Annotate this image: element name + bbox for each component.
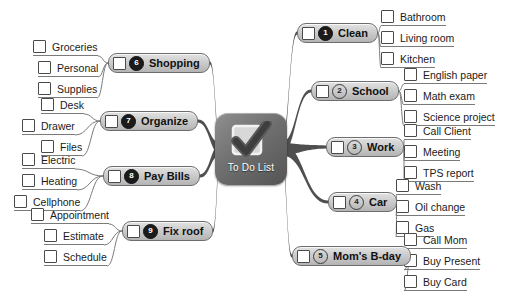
branch-label-clean: Clean xyxy=(338,27,368,39)
branch-node-fix-roof[interactable]: 9Fix roof xyxy=(122,221,213,241)
branch-number-badge-shopping: 6 xyxy=(129,56,144,71)
leaf-node[interactable]: Math exam xyxy=(404,88,475,105)
branch-checkbox-school[interactable] xyxy=(316,85,329,98)
branch-node-car[interactable]: 4Car xyxy=(328,192,397,212)
branch-checkbox-shopping[interactable] xyxy=(113,57,126,70)
leaf-node[interactable]: Supplies xyxy=(38,81,97,98)
leaf-label: Call Mom xyxy=(423,234,467,246)
leaf-node[interactable]: Kitchen xyxy=(381,51,435,68)
branch-node-moms-bday[interactable]: 5Mom's B-day xyxy=(292,246,411,266)
leaf-label: Appointment xyxy=(50,209,109,221)
leaf-checkbox[interactable] xyxy=(404,89,417,102)
branch-node-clean[interactable]: 1Clean xyxy=(297,23,378,43)
leaf-checkbox[interactable] xyxy=(381,31,394,44)
leaf-node[interactable]: Oil change xyxy=(396,199,465,216)
leaf-label: Drawer xyxy=(41,120,75,132)
leaf-checkbox[interactable] xyxy=(396,179,409,192)
leaf-node[interactable]: Electric xyxy=(22,152,75,169)
leaf-node[interactable]: Groceries xyxy=(33,39,98,56)
branch-label-school: School xyxy=(352,85,389,97)
leaf-label: Oil change xyxy=(415,201,465,213)
leaf-checkbox[interactable] xyxy=(33,40,46,53)
leaf-checkbox[interactable] xyxy=(22,119,35,132)
branch-node-organize[interactable]: 7Organize xyxy=(100,111,198,131)
central-topic-node[interactable]: To Do List xyxy=(215,113,287,185)
branch-number-badge-school: 2 xyxy=(332,84,347,99)
branch-label-moms-bday: Mom's B-day xyxy=(333,250,401,262)
branch-checkbox-car[interactable] xyxy=(333,196,346,209)
checkmark-checkbox-icon xyxy=(229,121,273,161)
leaf-label: Living room xyxy=(400,32,454,44)
leaf-label: Buy Present xyxy=(423,255,480,267)
edge-branch-to-leaf xyxy=(82,121,100,156)
leaf-checkbox[interactable] xyxy=(404,110,417,123)
leaf-checkbox[interactable] xyxy=(38,61,51,74)
leaf-checkbox[interactable] xyxy=(404,124,417,137)
leaf-checkbox[interactable] xyxy=(381,10,394,23)
leaf-node[interactable]: Bathroom xyxy=(381,9,446,26)
branch-checkbox-organize[interactable] xyxy=(105,115,118,128)
branch-number-badge-moms-bday: 5 xyxy=(313,249,328,264)
leaf-checkbox[interactable] xyxy=(404,145,417,158)
leaf-checkbox[interactable] xyxy=(396,200,409,213)
leaf-checkbox[interactable] xyxy=(404,233,417,246)
leaf-node[interactable]: Heating xyxy=(22,173,77,190)
leaf-label: Bathroom xyxy=(400,11,446,23)
leaf-checkbox[interactable] xyxy=(22,153,35,166)
leaf-label: Wash xyxy=(415,180,441,192)
leaf-node[interactable]: Personal xyxy=(38,60,98,77)
branch-node-school[interactable]: 2School xyxy=(311,81,399,101)
leaf-label: Files xyxy=(60,141,82,153)
leaf-checkbox[interactable] xyxy=(404,275,417,288)
leaf-node[interactable]: Drawer xyxy=(22,118,75,135)
leaf-node[interactable]: Desk xyxy=(41,97,84,114)
leaf-checkbox[interactable] xyxy=(38,82,51,95)
leaf-label: English paper xyxy=(423,69,487,81)
leaf-checkbox[interactable] xyxy=(381,52,394,65)
leaf-checkbox[interactable] xyxy=(404,68,417,81)
branch-number-badge-fix-roof: 9 xyxy=(143,224,158,239)
leaf-label: Electric xyxy=(41,154,75,166)
mindmap-canvas: To Do List 1CleanBathroomLiving roomKitc… xyxy=(0,0,505,299)
leaf-label: Desk xyxy=(60,99,84,111)
branch-checkbox-fix-roof[interactable] xyxy=(127,225,140,238)
leaf-node[interactable]: Schedule xyxy=(44,249,107,266)
branch-checkbox-clean[interactable] xyxy=(302,27,315,40)
edge-branch-to-leaf xyxy=(84,114,100,121)
leaf-checkbox[interactable] xyxy=(31,208,44,221)
leaf-label: Personal xyxy=(57,62,98,74)
leaf-label: Schedule xyxy=(63,251,107,263)
branch-checkbox-pay-bills[interactable] xyxy=(108,170,121,183)
edge-branch-to-leaf xyxy=(75,169,103,176)
branch-checkbox-moms-bday[interactable] xyxy=(297,250,310,263)
leaf-checkbox[interactable] xyxy=(22,174,35,187)
branch-node-shopping[interactable]: 6Shopping xyxy=(108,53,210,73)
branch-label-work: Work xyxy=(367,141,394,153)
leaf-node[interactable]: Call Client xyxy=(404,123,471,140)
leaf-node[interactable]: Meeting xyxy=(404,144,460,161)
branch-checkbox-work[interactable] xyxy=(331,141,344,154)
leaf-label: Supplies xyxy=(57,83,97,95)
leaf-label: Meeting xyxy=(423,146,460,158)
branch-node-pay-bills[interactable]: 8Pay Bills xyxy=(103,166,200,186)
leaf-node[interactable]: Estimate xyxy=(44,228,104,245)
leaf-node[interactable]: Buy Card xyxy=(404,274,467,291)
edge-branch-to-leaf xyxy=(97,63,108,98)
leaf-checkbox[interactable] xyxy=(44,250,57,263)
branch-label-shopping: Shopping xyxy=(149,57,200,69)
central-topic-label: To Do List xyxy=(228,162,274,173)
leaf-node[interactable]: Appointment xyxy=(31,207,109,224)
leaf-node[interactable]: Call Mom xyxy=(404,232,467,249)
branch-label-fix-roof: Fix roof xyxy=(163,225,203,237)
leaf-label: Buy Card xyxy=(423,276,467,288)
leaf-checkbox[interactable] xyxy=(44,229,57,242)
leaf-label: Call Client xyxy=(423,125,471,137)
leaf-label: TPS report xyxy=(423,167,474,179)
leaf-node[interactable]: English paper xyxy=(404,67,487,84)
branch-node-work[interactable]: 3Work xyxy=(326,137,404,157)
leaf-node[interactable]: Wash xyxy=(396,178,441,195)
leaf-checkbox[interactable] xyxy=(14,195,27,208)
leaf-checkbox[interactable] xyxy=(41,98,54,111)
leaf-node[interactable]: Buy Present xyxy=(404,253,480,270)
leaf-node[interactable]: Living room xyxy=(381,30,454,47)
